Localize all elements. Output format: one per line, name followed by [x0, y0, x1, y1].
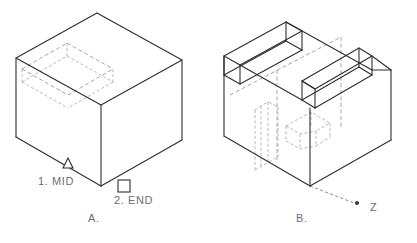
drawing-canvas: 1. MID 2. END A. — [0, 0, 417, 243]
figure-b: Z B. — [0, 0, 417, 243]
figure-b-hidden-arrow-profile — [255, 102, 330, 170]
z-axis-label: Z — [370, 201, 377, 213]
figure-b-caption: B. — [296, 212, 308, 224]
figure-b-hidden-guides — [230, 37, 341, 160]
figure-b-pocket-shelf — [240, 48, 372, 108]
figure-b-box-body — [224, 56, 391, 186]
z-axis-dot — [355, 201, 359, 205]
z-axis-leader — [310, 186, 359, 205]
